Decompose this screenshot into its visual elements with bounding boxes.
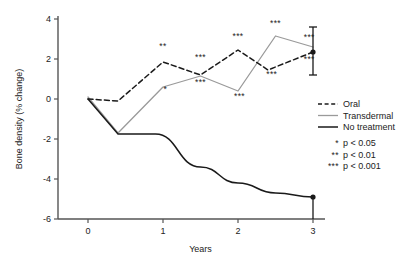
- x-tick-label-1: 1: [160, 226, 165, 236]
- significance-marker-6: ***: [195, 77, 206, 87]
- significance-marker-5: *: [163, 84, 167, 94]
- significance-marker-4: ***: [304, 32, 315, 42]
- significance-marker-2: ***: [232, 31, 243, 41]
- significance-marker-0: **: [159, 41, 167, 51]
- significance-key-symbol-0: *: [335, 138, 339, 148]
- y-tick-label-0: 0: [46, 94, 51, 104]
- x-axis-title: Years: [189, 244, 212, 254]
- significance-key-symbol-2: ***: [328, 161, 339, 171]
- legend-label-oral: Oral: [343, 99, 360, 109]
- significance-key-label-1: p < 0.01: [343, 150, 376, 160]
- legend-label-no-treatment: No treatment: [343, 122, 396, 132]
- y-tick-label-4: 4: [46, 14, 51, 24]
- series-line-no-treatment: [88, 99, 313, 197]
- y-tick-label--4: -4: [43, 174, 51, 184]
- bone-density-chart-figure: -6-4-20240123YearsBone density (% change…: [0, 0, 420, 263]
- x-tick-label-3: 3: [310, 226, 315, 236]
- x-tick-label-2: 2: [235, 226, 240, 236]
- significance-marker-1: ***: [195, 52, 206, 62]
- y-axis-title: Bone density (% change): [14, 69, 24, 170]
- y-tick-label--2: -2: [43, 134, 51, 144]
- significance-marker-8: ***: [266, 69, 277, 79]
- legend-label-transdermal: Transdermal: [343, 111, 393, 121]
- endpoint-marker-1: [310, 194, 315, 199]
- y-tick-label-2: 2: [46, 54, 51, 64]
- significance-key-symbol-1: **: [332, 150, 340, 160]
- significance-marker-3: ***: [270, 18, 281, 28]
- significance-key-label-0: p < 0.05: [343, 138, 376, 148]
- significance-key-label-2: p < 0.001: [343, 161, 381, 171]
- chart-plot-area: -6-4-20240123YearsBone density (% change…: [0, 0, 420, 263]
- x-tick-label-0: 0: [85, 226, 90, 236]
- significance-marker-9: ***: [304, 54, 315, 64]
- y-tick-label--6: -6: [43, 214, 51, 224]
- significance-marker-7: ***: [234, 91, 245, 101]
